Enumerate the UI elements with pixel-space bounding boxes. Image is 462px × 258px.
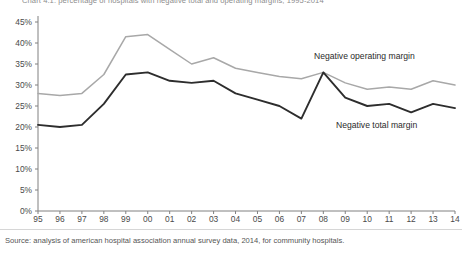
plot-area: 0%5%10%15%20%25%30%35%40%45% 95969798990… xyxy=(0,8,462,223)
x-axis-tick-label: 05 xyxy=(247,214,267,224)
x-axis-tick-label: 95 xyxy=(28,214,48,224)
series-line-total-margin xyxy=(38,72,455,127)
y-axis-tick-label: 25% xyxy=(2,101,32,111)
x-axis-tick-label: 98 xyxy=(94,214,114,224)
y-axis-tick-label: 5% xyxy=(2,185,32,195)
x-axis-tick-label: 04 xyxy=(226,214,246,224)
chart-axes xyxy=(35,16,455,214)
x-axis-tick-label: 00 xyxy=(138,214,158,224)
chart-series-group xyxy=(38,35,455,127)
x-axis-tick-label: 06 xyxy=(269,214,289,224)
x-axis-tick-label: 11 xyxy=(379,214,399,224)
x-axis-tick-label: 13 xyxy=(423,214,443,224)
x-axis-tick-label: 09 xyxy=(335,214,355,224)
y-axis-tick-label: 45% xyxy=(2,17,32,27)
x-axis-tick-label: 96 xyxy=(50,214,70,224)
y-axis-tick-label: 15% xyxy=(2,143,32,153)
x-axis-tick-label: 12 xyxy=(401,214,421,224)
series-label-total-margin: Negative total margin xyxy=(336,120,417,130)
x-axis-tick-label: 07 xyxy=(291,214,311,224)
y-axis-tick-label: 10% xyxy=(2,164,32,174)
chart-svg xyxy=(0,8,462,223)
series-label-operating-margin: Negative operating margin xyxy=(314,51,415,61)
series-line-operating-margin xyxy=(38,35,455,96)
x-axis-tick-label: 99 xyxy=(116,214,136,224)
chart-title: Chart 4.1: percentage of hospitals with … xyxy=(22,0,324,5)
y-axis-tick-label: 20% xyxy=(2,122,32,132)
x-axis-tick-label: 01 xyxy=(160,214,180,224)
x-axis-tick-label: 08 xyxy=(313,214,333,224)
y-axis-tick-label: 40% xyxy=(2,38,32,48)
y-axis-tick-label: 35% xyxy=(2,59,32,69)
x-axis-tick-label: 10 xyxy=(357,214,377,224)
y-axis-tick-label: 30% xyxy=(2,80,32,90)
source-note: Source: analysis of american hospital as… xyxy=(5,236,344,245)
x-axis-tick-label: 14 xyxy=(445,214,462,224)
x-axis-tick-label: 02 xyxy=(182,214,202,224)
x-axis-tick-label: 97 xyxy=(72,214,92,224)
footer-divider xyxy=(0,229,462,230)
x-axis-tick-label: 03 xyxy=(204,214,224,224)
chart-page: Chart 4.1: percentage of hospitals with … xyxy=(0,0,462,258)
